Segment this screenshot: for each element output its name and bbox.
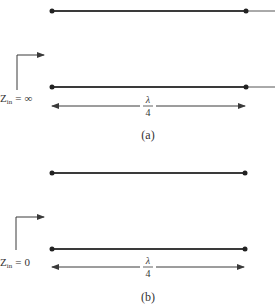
node-dot	[243, 171, 248, 176]
node-dot	[50, 247, 55, 252]
length-denominator: 4	[146, 107, 151, 118]
node-dot	[50, 9, 55, 14]
panel-b: Zin=0 λ 4 (b)	[0, 171, 248, 305]
input-impedance-arrow	[17, 55, 44, 90]
caption-a: (a)	[141, 128, 154, 142]
node-dot	[243, 247, 248, 252]
node-dot	[244, 85, 249, 90]
node-dot	[244, 9, 249, 14]
input-impedance-arrow	[16, 217, 44, 250]
length-denominator: 4	[146, 268, 151, 279]
node-dot	[50, 85, 55, 90]
impedance-label: Zin=0	[0, 256, 30, 270]
panel-a: Zin=∞ λ 4 (a)	[0, 9, 275, 143]
node-dot	[50, 171, 55, 176]
impedance-label: Zin=∞	[0, 92, 32, 106]
length-numerator: λ	[145, 255, 151, 266]
transmission-line-diagram: Zin=∞ λ 4 (a) Zin=0 λ 4 (b)	[0, 0, 275, 307]
caption-b: (b)	[141, 290, 155, 304]
length-numerator: λ	[145, 94, 151, 105]
